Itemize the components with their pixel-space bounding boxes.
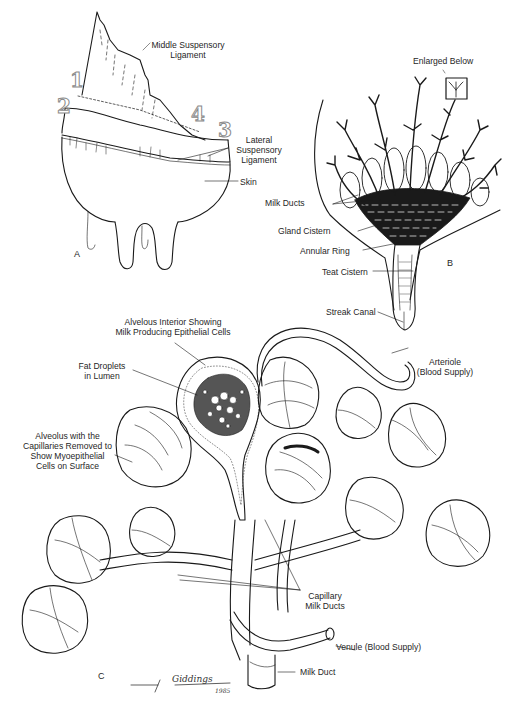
label-skin: Skin bbox=[240, 177, 257, 187]
label-line: Middle Suspensory bbox=[148, 40, 228, 50]
label-enlarged-below: Enlarged Below bbox=[413, 56, 473, 66]
label-line: Alveolus with the bbox=[20, 431, 115, 441]
label-line: Cells on Surface bbox=[20, 461, 115, 471]
label-line: Lateral bbox=[234, 135, 284, 145]
label-line: Milk Ducts bbox=[300, 601, 350, 611]
label-line: (Blood Supply) bbox=[410, 367, 480, 377]
label-streak-canal: Streak Canal bbox=[326, 307, 376, 317]
panel-letter-a: A bbox=[74, 249, 80, 259]
panel-c-alveoli-drawing bbox=[22, 328, 489, 692]
marker-2: 2 bbox=[57, 96, 71, 116]
label-lateral-suspensory-ligament: Lateral Suspensory Ligament bbox=[234, 135, 284, 165]
label-milk-ducts: Milk Ducts bbox=[265, 198, 305, 208]
label-line: Capillaries Removed to bbox=[20, 441, 115, 451]
label-line: Suspensory bbox=[234, 145, 284, 155]
label-teat-cistern: Teat Cistern bbox=[322, 267, 368, 277]
marker-1: 1 bbox=[70, 70, 84, 90]
label-capillary-milk-ducts: Capillary Milk Ducts bbox=[300, 591, 350, 611]
label-alveolus-interior: Alvelous Interior Showing Milk Producing… bbox=[108, 317, 238, 337]
marker-3: 3 bbox=[218, 120, 232, 140]
label-middle-suspensory-ligament: Middle Suspensory Ligament bbox=[148, 40, 228, 60]
label-line: Ligament bbox=[148, 50, 228, 60]
marker-4: 4 bbox=[191, 104, 205, 124]
signature-year: 1985 bbox=[215, 687, 230, 694]
label-annular-ring: Annular Ring bbox=[300, 246, 350, 256]
label-line: Fat Droplets bbox=[72, 361, 132, 371]
label-line: Show Myoepithelial bbox=[20, 451, 115, 461]
label-line: Ligament bbox=[234, 155, 284, 165]
label-alveolus-capillaries-removed: Alveolus with the Capillaries Removed to… bbox=[20, 431, 115, 471]
label-line: Alvelous Interior Showing bbox=[108, 317, 238, 327]
label-line: Capillary bbox=[300, 591, 350, 601]
label-line: in Lumen bbox=[72, 371, 132, 381]
label-milk-duct: Milk Duct bbox=[300, 667, 335, 677]
label-line: Arteriole bbox=[410, 357, 480, 367]
panel-letter-c: C bbox=[98, 671, 105, 681]
mammary-gland-illustration bbox=[0, 0, 521, 712]
label-venule: Venule (Blood Supply) bbox=[336, 642, 421, 652]
panel-letter-b: B bbox=[447, 258, 453, 268]
duct-tree bbox=[327, 77, 501, 205]
label-fat-droplets: Fat Droplets in Lumen bbox=[72, 361, 132, 381]
label-gland-cistern: Gland Cistern bbox=[278, 226, 331, 236]
label-arteriole: Arteriole (Blood Supply) bbox=[410, 357, 480, 377]
artist-signature: Giddings bbox=[172, 674, 213, 684]
label-line: Milk Producing Epithelial Cells bbox=[108, 327, 238, 337]
